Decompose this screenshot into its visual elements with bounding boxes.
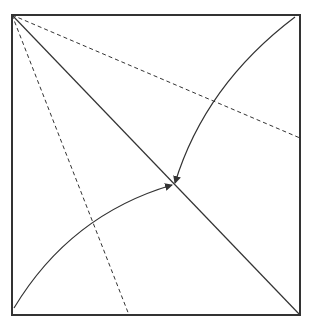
dashed-fold-line-upper — [12, 15, 300, 138]
folding-diagram — [0, 0, 310, 328]
fold-arrow-bottom-left — [14, 185, 172, 308]
diagonal-crease — [12, 15, 300, 315]
fold-arrow-top-right — [175, 17, 295, 183]
dashed-fold-line-lower — [12, 15, 129, 315]
